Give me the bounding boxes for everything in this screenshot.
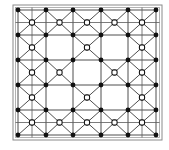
filled-node-icon (71, 8, 76, 13)
filled-node-icon (71, 108, 76, 113)
diagonal-lines (18, 10, 156, 135)
filled-node-icon (154, 58, 159, 63)
filled-node-icon (44, 8, 49, 13)
filled-node-icon (99, 83, 104, 88)
open-node-icon (29, 70, 34, 75)
open-node-icon (139, 70, 144, 75)
filled-node-icon (99, 33, 104, 38)
filled-node-icon (154, 33, 159, 38)
filled-node-icon (16, 133, 21, 138)
open-node-icon (112, 70, 117, 75)
open-node-icon (29, 95, 34, 100)
filled-node-icon (44, 133, 49, 138)
open-node-icon (139, 120, 144, 125)
open-node-icon (29, 120, 34, 125)
filled-node-icon (16, 58, 21, 63)
filled-node-icon (99, 133, 104, 138)
filled-node-icon (71, 83, 76, 88)
filled-node-icon (44, 33, 49, 38)
open-node-icon (112, 20, 117, 25)
open-node-icon (139, 20, 144, 25)
open-node-icon (84, 95, 89, 100)
filled-node-icon (99, 8, 104, 13)
lattice-diagram (0, 0, 169, 150)
filled-node-icon (44, 108, 49, 113)
filled-node-icon (71, 58, 76, 63)
open-node-icon (112, 120, 117, 125)
filled-node-icon (154, 133, 159, 138)
filled-node-icon (126, 58, 131, 63)
open-node-icon (29, 20, 34, 25)
filled-node-icon (16, 8, 21, 13)
filled-node-icon (154, 83, 159, 88)
filled-node-icon (126, 108, 131, 113)
filled-node-icon (99, 58, 104, 63)
open-node-icon (139, 45, 144, 50)
filled-node-icon (44, 83, 49, 88)
open-node-icon (29, 45, 34, 50)
open-node-icon (57, 120, 62, 125)
open-node-icon (57, 20, 62, 25)
filled-node-icon (44, 58, 49, 63)
filled-node-icon (126, 83, 131, 88)
filled-node-icon (154, 8, 159, 13)
filled-node-icon (71, 133, 76, 138)
filled-node-icon (126, 133, 131, 138)
open-node-icon (57, 70, 62, 75)
filled-node-icon (154, 108, 159, 113)
open-node-icon (139, 95, 144, 100)
filled-node-icon (16, 83, 21, 88)
filled-node-icon (99, 108, 104, 113)
filled-node-icon (126, 8, 131, 13)
filled-node-icon (16, 33, 21, 38)
open-node-icon (84, 120, 89, 125)
filled-node-icon (16, 108, 21, 113)
open-node-icon (84, 45, 89, 50)
open-node-icon (84, 20, 89, 25)
filled-node-icon (126, 33, 131, 38)
filled-node-icon (71, 33, 76, 38)
